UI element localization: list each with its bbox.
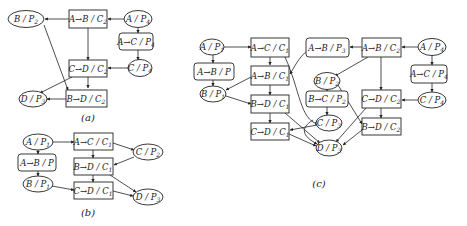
svg-text:B→D / C2: B→D / C2 bbox=[66, 94, 106, 105]
node-C-to-D-C1: C→D / C1 bbox=[73, 182, 113, 199]
node-B-to-C-P2: B→C / P2 bbox=[306, 91, 348, 107]
node-A-P1: A / P1 bbox=[199, 39, 224, 55]
node-A-to-B-C2: A→B / C2 bbox=[68, 10, 107, 28]
node-D-P3: D / P3 bbox=[316, 140, 342, 156]
node-C-P2: C / P2 bbox=[133, 144, 163, 160]
diagram-canvas: B / P2 A→B / C2 A / P4 A→C / P4 C→D / C2… bbox=[0, 0, 467, 226]
svg-text:A→B / P: A→B / P bbox=[19, 158, 54, 168]
node-C-P4: C / P4 bbox=[418, 92, 446, 108]
node-A-P4: A / P4 bbox=[418, 39, 446, 56]
node-A-to-B-P: A→B / P bbox=[18, 154, 56, 171]
node-A-to-B-C2: A→B / C2 bbox=[361, 38, 401, 57]
node-D-P3: D / P3 bbox=[133, 189, 163, 205]
svg-text:A→B / C2: A→B / C2 bbox=[68, 14, 107, 25]
svg-text:A→B / C1: A→B / C1 bbox=[250, 71, 289, 82]
node-C-to-D-C2: C→D / C2 bbox=[68, 60, 107, 77]
node-A-to-C-C1: A→C / C1 bbox=[73, 133, 113, 150]
node-B-to-D-C2: B→D / C2 bbox=[361, 118, 401, 135]
edges-a bbox=[40, 19, 138, 99]
node-A-to-B-C1: A→B / C1 bbox=[250, 66, 289, 85]
svg-text:B→D / C1: B→D / C1 bbox=[73, 162, 113, 173]
node-B-P2: B / P2 bbox=[8, 11, 44, 28]
node-A-P1: A / P1 bbox=[23, 134, 53, 150]
svg-text:A→C / P4: A→C / P4 bbox=[116, 37, 155, 48]
node-B-P1: B / P1 bbox=[23, 176, 53, 192]
node-B-P1: B / P1 bbox=[200, 86, 226, 102]
node-A-to-C-P4: A→C / P4 bbox=[409, 65, 448, 83]
diagram-b: A / P1 A→C / C1 C / P2 A→B / P B→D / C1 … bbox=[18, 133, 163, 218]
svg-text:A→C / C1: A→C / C1 bbox=[250, 43, 289, 54]
node-A-P4: A / P4 bbox=[124, 11, 152, 28]
node-B-to-D-C1: B→D / C1 bbox=[250, 95, 290, 113]
node-C-to-D-C1: C→D / C1 bbox=[250, 123, 289, 140]
svg-text:B→D / C1: B→D / C1 bbox=[250, 99, 290, 110]
svg-text:A→B / C2: A→B / C2 bbox=[361, 43, 400, 54]
node-C-to-D-C2: C→D / C2 bbox=[361, 90, 401, 108]
caption-b: (b) bbox=[81, 207, 95, 218]
svg-text:C→D / C2: C→D / C2 bbox=[361, 94, 400, 105]
caption-a: (a) bbox=[81, 112, 95, 123]
diagram-a: B / P2 A→B / C2 A / P4 A→C / P4 C→D / C2… bbox=[8, 10, 155, 123]
svg-text:C→D / C1: C→D / C1 bbox=[250, 127, 289, 138]
caption-c: (c) bbox=[312, 178, 326, 189]
svg-text:A→B / P: A→B / P bbox=[196, 67, 231, 77]
svg-text:C→D / C1: C→D / C1 bbox=[73, 186, 112, 197]
node-A-to-B-P: A→B / P bbox=[194, 63, 234, 80]
svg-text:A→B / P3: A→B / P3 bbox=[307, 43, 346, 54]
node-A-to-C-P4: A→C / P4 bbox=[116, 33, 155, 50]
node-C-P3: C / P3 bbox=[316, 115, 342, 131]
node-A-to-B-P3: A→B / P3 bbox=[306, 38, 349, 57]
svg-text:A→C / P4: A→C / P4 bbox=[409, 69, 448, 80]
node-D-P3: D / P3 bbox=[19, 91, 47, 107]
diagram-c: A / P1 A→C / C1 A→B / P3 A→B / C2 A / P4… bbox=[194, 38, 448, 189]
svg-text:C→D / C2: C→D / C2 bbox=[68, 64, 107, 75]
node-B-to-D-C2: B→D / C2 bbox=[66, 90, 107, 107]
svg-text:B→D / C2: B→D / C2 bbox=[361, 122, 401, 133]
node-B-to-D-C1: B→D / C1 bbox=[73, 158, 113, 175]
svg-text:A→C / C1: A→C / C1 bbox=[73, 137, 112, 148]
svg-text:B→C / P2: B→C / P2 bbox=[307, 94, 346, 105]
node-C-P4: C / P4 bbox=[128, 60, 153, 77]
node-A-to-C-C1: A→C / C1 bbox=[250, 38, 289, 57]
node-B-P2: B / P2 bbox=[314, 73, 340, 90]
